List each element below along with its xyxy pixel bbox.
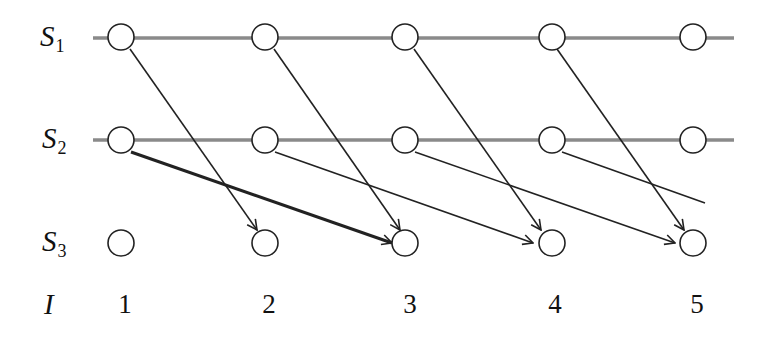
row-label-s2: S2 [42,124,66,153]
index-5: 5 [690,291,704,318]
row-label-s1: S1 [40,22,64,51]
trellis-diagram [0,0,775,339]
index-4: 4 [548,291,562,318]
row-label-s3: S3 [42,227,66,256]
index-2: 2 [262,291,276,318]
index-1: 1 [118,291,132,318]
index-3: 3 [403,291,417,318]
index-label: I [44,290,54,319]
